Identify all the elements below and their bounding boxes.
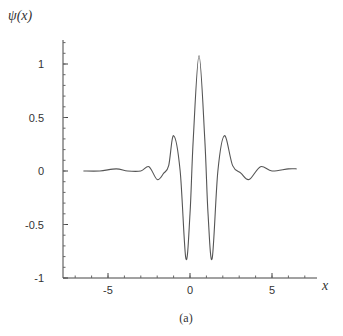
y-tick-label: -0.5 bbox=[25, 219, 44, 231]
figure-caption: (a) bbox=[179, 311, 192, 325]
y-tick-label: 0.5 bbox=[29, 112, 44, 124]
y-tick-label: 1 bbox=[38, 58, 44, 70]
chart: 10.50-0.5-1 -505 ψ(x) x (a) bbox=[0, 0, 343, 336]
axes bbox=[63, 40, 317, 278]
x-tick-label: 0 bbox=[187, 284, 193, 296]
y-tick-label: 0 bbox=[38, 165, 44, 177]
x-ticks: -505 bbox=[75, 273, 305, 296]
y-ticks: 10.50-0.5-1 bbox=[25, 43, 68, 284]
x-tick-label: -5 bbox=[103, 284, 113, 296]
y-tick-label: -1 bbox=[34, 272, 44, 284]
x-axis-label: x bbox=[321, 278, 329, 293]
y-axis-label: ψ(x) bbox=[8, 8, 33, 24]
wavelet-curve bbox=[83, 55, 296, 259]
x-tick-label: 5 bbox=[269, 284, 275, 296]
